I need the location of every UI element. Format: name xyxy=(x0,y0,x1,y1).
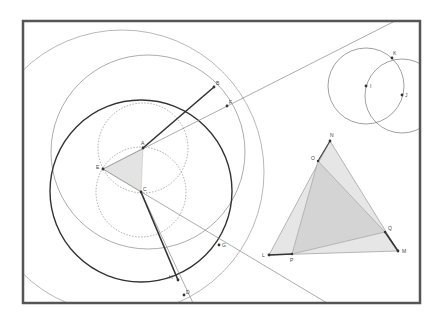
point-h[interactable] xyxy=(177,279,180,282)
label-a: A xyxy=(141,140,145,146)
label-i: I xyxy=(370,83,371,89)
point-g[interactable] xyxy=(218,244,221,247)
point-a[interactable] xyxy=(142,147,145,150)
label-h: H xyxy=(169,274,173,280)
geometry-canvas: A B C D E F G H I J K L M N O P Q xyxy=(0,0,444,334)
segment-l-p xyxy=(269,254,292,255)
label-n: N xyxy=(330,132,334,138)
label-l: L xyxy=(262,252,265,258)
label-g: G xyxy=(222,242,226,248)
label-j: J xyxy=(405,92,408,98)
points-group xyxy=(102,57,404,297)
point-q[interactable] xyxy=(384,231,386,233)
point-c[interactable] xyxy=(140,191,143,194)
label-f: F xyxy=(229,99,232,105)
label-q: Q xyxy=(388,225,392,231)
point-b[interactable] xyxy=(213,86,216,89)
label-d: D xyxy=(186,289,190,295)
point-j[interactable] xyxy=(401,94,404,97)
point-m[interactable] xyxy=(397,250,400,253)
line-e-a-f xyxy=(103,21,395,169)
label-m: M xyxy=(402,248,406,254)
point-o[interactable] xyxy=(317,160,319,162)
label-p: P xyxy=(290,257,294,263)
label-b: B xyxy=(216,80,220,86)
point-n[interactable] xyxy=(329,140,332,143)
label-c: C xyxy=(143,186,147,192)
point-p[interactable] xyxy=(291,253,293,255)
segment-c-h xyxy=(141,192,178,280)
shaded-triangle-eac xyxy=(103,148,143,192)
construction-group xyxy=(0,21,439,314)
label-o: O xyxy=(311,155,315,161)
point-k[interactable] xyxy=(391,57,394,60)
segment-a-b xyxy=(143,87,214,148)
point-f[interactable] xyxy=(226,105,229,108)
point-i[interactable] xyxy=(365,85,368,88)
point-l[interactable] xyxy=(268,254,271,257)
label-k: K xyxy=(393,50,397,56)
point-d[interactable] xyxy=(183,294,186,297)
point-e[interactable] xyxy=(102,168,105,171)
label-e: E xyxy=(96,164,100,170)
